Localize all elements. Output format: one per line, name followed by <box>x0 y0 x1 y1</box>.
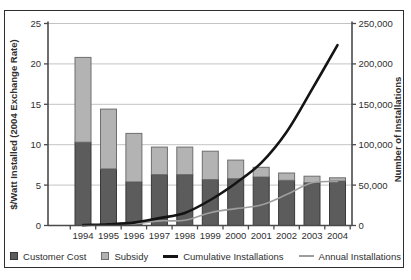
year-label: 1999 <box>200 230 221 241</box>
right-axis-tick-label: 100,000 <box>359 139 393 150</box>
subsidy-swatch-icon <box>101 252 109 260</box>
year-label: 1994 <box>72 230 93 241</box>
bar-subsidy-1995 <box>101 109 117 169</box>
bar-subsidy-2002 <box>279 173 295 180</box>
bar-subsidy-1997 <box>151 147 167 175</box>
bar-customer-cost-2001 <box>253 177 269 226</box>
bar-customer-cost-1996 <box>126 182 142 226</box>
year-label: 1998 <box>174 230 195 241</box>
bar-customer-cost-2002 <box>279 180 295 225</box>
year-label: 1996 <box>123 230 144 241</box>
bar-customer-cost-1998 <box>177 175 193 226</box>
year-label: 1997 <box>149 230 170 241</box>
bar-subsidy-2000 <box>228 160 244 179</box>
year-label: 2002 <box>276 230 297 241</box>
legend-label: Annual Installations <box>319 251 401 262</box>
bar-customer-cost-1995 <box>101 169 117 226</box>
legend-item-subsidy: Subsidy <box>101 251 148 262</box>
bar-subsidy-1994 <box>75 57 91 142</box>
bar-customer-cost-2003 <box>304 183 320 226</box>
legend-item-cumulative-installations: Cumulative Installations <box>163 251 283 262</box>
year-label: 2000 <box>225 230 246 241</box>
left-axis-title: $/Watt Installed (2004 Exchange Rate) <box>8 10 21 240</box>
cumulative-line-swatch-icon <box>163 255 178 258</box>
left-axis-tick-label: 10 <box>30 139 41 150</box>
bar-subsidy-1998 <box>177 147 193 175</box>
left-axis-tick-label: 25 <box>30 18 41 29</box>
left-axis-tick-label: 5 <box>36 180 41 191</box>
year-label: 2003 <box>301 230 322 241</box>
right-axis-tick-label: 250,000 <box>359 18 393 29</box>
right-axis-tick-label: 50,000 <box>359 180 388 191</box>
right-axis-tick-label: 150,000 <box>359 99 393 110</box>
year-label: 2001 <box>251 230 272 241</box>
right-axis-tick-label: 0 <box>359 220 364 231</box>
legend-label: Customer Cost <box>23 251 86 262</box>
year-label: 2004 <box>327 230 348 241</box>
right-axis-title: Number of Installations <box>392 50 405 210</box>
legend-label: Subsidy <box>114 251 148 262</box>
annual-line-swatch-icon <box>299 255 314 257</box>
left-axis-tick-label: 20 <box>30 58 41 69</box>
left-axis-tick-label: 15 <box>30 99 41 110</box>
chart-figure: 0510152025050,000100,000150,000200,00025… <box>0 0 411 280</box>
bar-subsidy-1999 <box>202 151 218 179</box>
customer-cost-swatch-icon <box>10 252 18 260</box>
legend-item-annual-installations: Annual Installations <box>299 251 401 262</box>
bar-subsidy-1996 <box>126 133 142 182</box>
legend: Customer Cost Subsidy Cumulative Install… <box>8 247 403 265</box>
left-axis-tick-label: 0 <box>36 220 41 231</box>
legend-label: Cumulative Installations <box>183 251 283 262</box>
right-axis-tick-label: 200,000 <box>359 58 393 69</box>
legend-item-customer-cost: Customer Cost <box>10 251 86 262</box>
chart-plot-area: 0510152025050,000100,000150,000200,00025… <box>0 0 411 280</box>
bar-customer-cost-1994 <box>75 142 91 225</box>
year-label: 1995 <box>98 230 119 241</box>
bar-subsidy-2004 <box>330 178 346 181</box>
bar-customer-cost-2004 <box>330 181 346 225</box>
